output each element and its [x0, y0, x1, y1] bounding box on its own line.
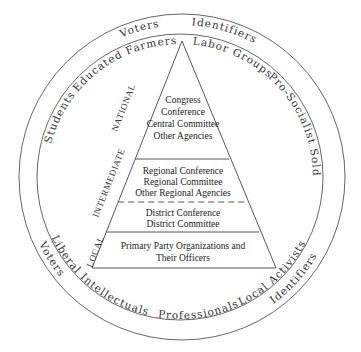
- inner-ring-educated-farmers-label: Educated Farmers: [70, 34, 178, 94]
- tier-regional: Regional Conference Regional Committee O…: [135, 166, 231, 198]
- level-intermediate-label: INTERMEDIATE: [91, 147, 127, 219]
- tier-line: District Conference: [146, 208, 221, 218]
- inner-ring-students-label: Students: [42, 88, 78, 144]
- tier-district: District Conference District Committee: [146, 208, 221, 229]
- level-national-label: NATIONAL: [110, 82, 138, 132]
- inner-ring-professionals-label: Professionals: [158, 297, 241, 321]
- tier-line: Regional Conference: [143, 166, 223, 176]
- tier-line: Conference: [161, 107, 205, 117]
- tier-line: Regional Committee: [144, 177, 223, 187]
- tier-line: Primary Party Organizations and: [121, 241, 246, 251]
- tier-line: District Committee: [146, 219, 219, 229]
- inner-ring-pro-socialist-soldiers-label: Pro-Socialist Soldiers: [0, 0, 323, 177]
- tier-line: Their Officers: [156, 253, 210, 263]
- level-local-label: LOCAL: [85, 234, 106, 268]
- tier-line: Central Committee: [147, 119, 220, 129]
- tier-primary: Primary Party Organizations and Their Of…: [121, 241, 246, 263]
- inner-ring-labor-groups-label: Labor Groups: [192, 35, 276, 80]
- tier-line: Other Agencies: [154, 131, 213, 141]
- tier-line: Other Regional Agencies: [135, 188, 231, 198]
- party-structure-diagram: Voters Identifiers Voters Identifiers St…: [0, 0, 361, 352]
- tier-line: Congress: [165, 95, 201, 105]
